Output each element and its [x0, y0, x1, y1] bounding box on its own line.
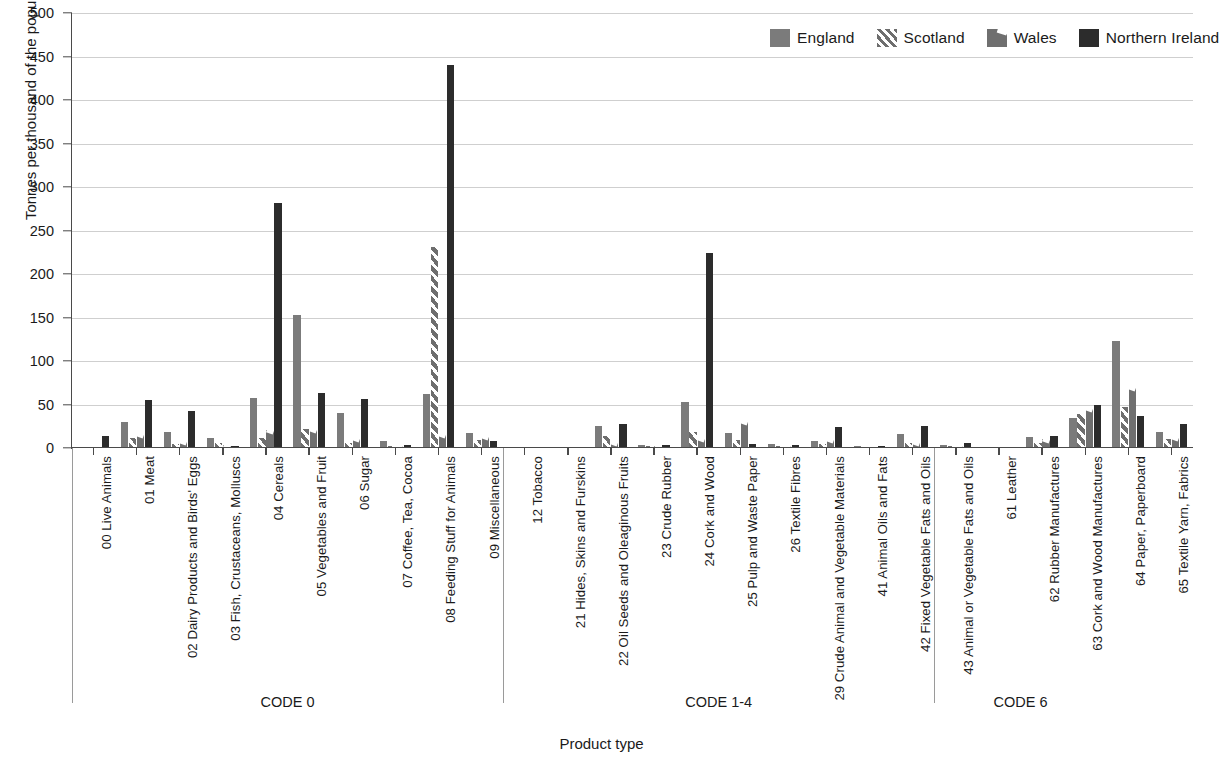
bar-group — [632, 13, 675, 448]
bar-group — [719, 13, 762, 448]
code-band-label: CODE 6 — [994, 694, 1048, 710]
y-tick-mark — [63, 143, 72, 144]
bar-scotland[interactable] — [1077, 414, 1084, 448]
y-tick-label: 200 — [12, 266, 54, 282]
bar-wales[interactable] — [1086, 408, 1093, 448]
plot-area: 050100150200250300350400450500 — [72, 13, 1193, 448]
bar-group — [331, 13, 374, 448]
bar-nireland[interactable] — [447, 65, 454, 448]
y-tick-mark — [63, 273, 72, 274]
y-tick-label: 500 — [12, 5, 54, 21]
bar-england[interactable] — [595, 426, 602, 448]
x-axis-title: Product type — [0, 735, 1203, 752]
bar-nireland[interactable] — [1180, 424, 1187, 448]
bar-england[interactable] — [337, 413, 344, 448]
code-band-label: CODE 0 — [261, 694, 315, 710]
bar-scotland[interactable] — [1121, 407, 1128, 448]
bar-england[interactable] — [293, 315, 300, 448]
bar-group — [201, 13, 244, 448]
bar-wales[interactable] — [310, 429, 317, 448]
bar-england[interactable] — [681, 402, 688, 448]
bar-england[interactable] — [423, 394, 430, 448]
bar-nireland[interactable] — [361, 399, 368, 448]
bar-nireland[interactable] — [274, 203, 281, 448]
bar-england[interactable] — [1112, 341, 1119, 448]
bar-group — [676, 13, 719, 448]
bar-wales[interactable] — [1129, 387, 1136, 448]
bar-group — [848, 13, 891, 448]
y-tick-mark — [63, 317, 72, 318]
bar-scotland[interactable] — [431, 247, 438, 448]
bar-group — [1064, 13, 1107, 448]
bar-group — [72, 13, 115, 448]
bar-group — [546, 13, 589, 448]
y-tick-mark — [63, 404, 72, 405]
bar-group — [762, 13, 805, 448]
bar-nireland[interactable] — [318, 393, 325, 448]
bar-group — [1020, 13, 1063, 448]
bar-scotland[interactable] — [301, 429, 308, 448]
bar-group — [934, 13, 977, 448]
bar-nireland[interactable] — [188, 411, 195, 448]
bar-group — [503, 13, 546, 448]
code-band-separator — [503, 448, 504, 703]
bar-nireland[interactable] — [921, 426, 928, 448]
code-band-group: CODE 0CODE 1-4CODE 6 — [72, 448, 1193, 710]
bar-nireland[interactable] — [1094, 405, 1101, 448]
y-tick-label: 100 — [12, 353, 54, 369]
bar-group — [417, 13, 460, 448]
y-tick-label: 300 — [12, 179, 54, 195]
y-tick-label: 250 — [12, 223, 54, 239]
y-tick-mark — [63, 12, 72, 13]
y-tick-mark — [63, 447, 72, 448]
y-tick-mark — [63, 99, 72, 100]
bar-group — [891, 13, 934, 448]
y-tick-label: 0 — [12, 440, 54, 456]
bar-england[interactable] — [1069, 418, 1076, 448]
code-band-separator — [934, 448, 935, 703]
y-tick-mark — [63, 56, 72, 57]
bar-group — [589, 13, 632, 448]
bar-group — [1150, 13, 1193, 448]
code-band-separator — [72, 448, 73, 703]
bar-group — [374, 13, 417, 448]
y-tick-label: 400 — [12, 92, 54, 108]
bar-series-container — [72, 13, 1193, 448]
y-tick-label: 50 — [12, 397, 54, 413]
bar-england[interactable] — [121, 422, 128, 448]
bar-group — [460, 13, 503, 448]
y-tick-mark — [63, 360, 72, 361]
bar-nireland[interactable] — [619, 424, 626, 448]
y-tick-mark — [63, 186, 72, 187]
bar-group — [288, 13, 331, 448]
y-tick-label: 450 — [12, 49, 54, 65]
bar-wales[interactable] — [741, 421, 748, 448]
bar-group — [115, 13, 158, 448]
y-tick-label: 350 — [12, 136, 54, 152]
bar-group — [805, 13, 848, 448]
bar-nireland[interactable] — [145, 400, 152, 448]
bar-group — [158, 13, 201, 448]
bar-nireland[interactable] — [835, 427, 842, 448]
y-tick-label: 150 — [12, 310, 54, 326]
bar-group — [977, 13, 1020, 448]
y-axis-title: Tonnes per thousand of the population — [22, 0, 42, 310]
bar-england[interactable] — [250, 398, 257, 448]
code-band-label: CODE 1-4 — [685, 694, 752, 710]
bar-group — [244, 13, 287, 448]
bar-nireland[interactable] — [1137, 416, 1144, 448]
bar-nireland[interactable] — [706, 253, 713, 448]
bar-group — [1107, 13, 1150, 448]
y-tick-mark — [63, 230, 72, 231]
bar-wales[interactable] — [266, 430, 273, 448]
